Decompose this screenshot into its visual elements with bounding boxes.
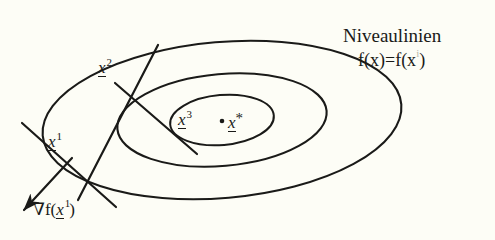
point-label-x2-var: x <box>98 59 106 77</box>
gradient-fn-open: f( <box>45 200 56 219</box>
point-label-x-star: x* <box>228 110 243 132</box>
point-label-x1: x1 <box>48 132 61 151</box>
point-label-x1-var: x <box>48 133 56 151</box>
figure-canvas: x2 x1 x3 x* ∇f(x1) Niveaulinien f(x)=f(x… <box>0 0 495 240</box>
point-label-x-star-var: x <box>228 114 236 132</box>
nabla-icon: ∇ <box>33 200 45 219</box>
point-label-x2-superscript: 2 <box>107 56 113 68</box>
level-curves-equation: f(x)=f(xi) <box>358 50 425 69</box>
point-label-x1-superscript: 1 <box>57 130 63 142</box>
tangent-at-x1-line <box>22 123 116 207</box>
point-label-x3-var: x <box>178 111 186 129</box>
optimum-center-dot <box>220 119 225 124</box>
gradient-fn-close: ) <box>69 200 75 219</box>
level-equation-prefix: f(x)=f(x <box>358 50 416 70</box>
gradient-label: ∇f(x1) <box>33 199 75 219</box>
level-curves-caption: Niveaulinien <box>343 26 441 45</box>
point-label-x-star-superscript: * <box>236 110 244 126</box>
point-label-x3-superscript: 3 <box>187 108 193 120</box>
level-equation-superscript: i <box>416 47 419 59</box>
point-label-x2: x2 <box>98 58 111 77</box>
level-equation-suffix: ) <box>419 50 425 70</box>
point-label-x3: x3 <box>178 110 191 129</box>
tangent-at-x2-line <box>78 45 158 200</box>
gradient-var: x <box>56 201 64 219</box>
gradient-superscript: 1 <box>65 197 71 209</box>
